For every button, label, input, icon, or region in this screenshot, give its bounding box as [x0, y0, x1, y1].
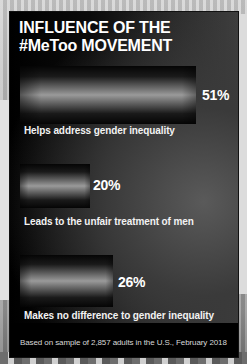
chart-title: INFLUENCE OF THE #MeToo MOVEMENT [19, 19, 172, 55]
background-strip-left [0, 100, 10, 300]
bar-unfair-treatment [20, 164, 90, 208]
title-line-1: INFLUENCE OF THE [19, 19, 172, 37]
bar-no-difference [20, 255, 113, 307]
title-line-2: #MeToo MOVEMENT [19, 37, 172, 55]
source-footnote: Based on sample of 2,857 adults in the U… [20, 338, 227, 347]
category-label-no-difference: Makes no difference to gender inequality [24, 310, 214, 321]
value-label-no-difference: 26% [118, 274, 145, 290]
value-label-unfair-treatment: 20% [93, 177, 120, 193]
category-label-unfair-treatment: Leads to the unfair treatment of men [24, 216, 194, 227]
category-label-helps-address: Helps address gender inequality [24, 125, 175, 136]
background-strip-right [237, 14, 247, 294]
value-label-helps-address: 51% [202, 87, 229, 103]
chart-panel: INFLUENCE OF THE #MeToo MOVEMENT 51% Hel… [10, 12, 238, 357]
bar-helps-address [20, 66, 196, 124]
